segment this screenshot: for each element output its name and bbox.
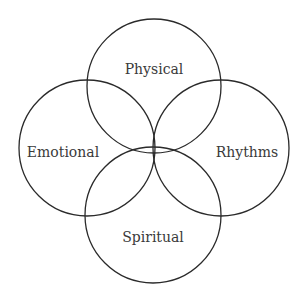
circle-physical — [87, 19, 221, 153]
circle-spiritual — [85, 147, 221, 283]
label-rhythms: Rhythms — [216, 144, 279, 160]
venn-diagram: Physical Emotional Rhythms Spiritual — [0, 0, 302, 298]
label-emotional: Emotional — [27, 144, 100, 160]
label-physical: Physical — [125, 61, 184, 77]
label-spiritual: Spiritual — [122, 229, 184, 245]
